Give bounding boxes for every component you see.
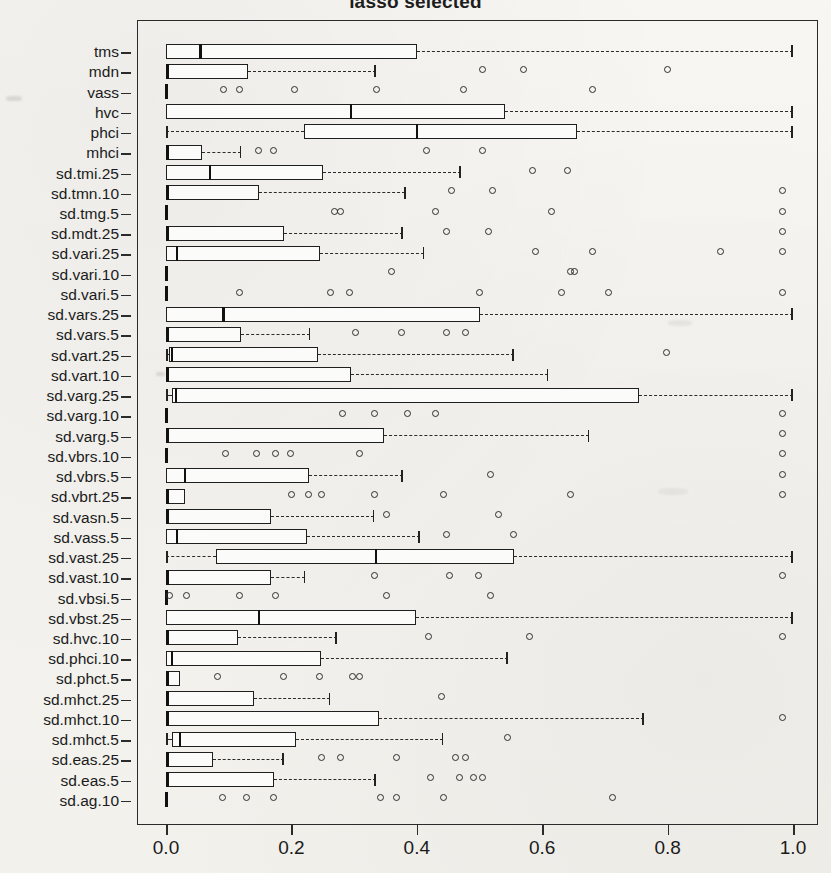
y-tick-label-sd-vart-10: sd.vart.10 [51, 369, 119, 383]
outlier-point [383, 592, 390, 599]
whisker-high [274, 779, 376, 780]
outlier-point [520, 66, 527, 73]
outlier-point [440, 491, 447, 498]
y-tick-mark [121, 679, 131, 680]
whisker-high [379, 718, 644, 719]
outlier-point [589, 86, 596, 93]
outlier-point [779, 248, 786, 255]
whisker-high [416, 617, 793, 618]
outlier-point [438, 693, 445, 700]
whisker-cap-high [373, 510, 375, 522]
x-tick-label: 0.6 [529, 837, 555, 859]
outlier-point [462, 754, 469, 761]
outlier-point [327, 289, 334, 296]
outlier-point [529, 167, 536, 174]
outlier-point [270, 794, 277, 801]
x-tick-label: 0.8 [654, 837, 680, 859]
outlier-point [255, 147, 262, 154]
y-tick-mark [121, 740, 131, 741]
boxplot-row [137, 770, 818, 791]
y-tick-mark [121, 781, 131, 782]
y-tick-mark [121, 437, 131, 438]
y-tick-mark [121, 295, 131, 296]
median-line [350, 104, 352, 119]
outlier-point [446, 572, 453, 579]
outlier-point [779, 208, 786, 215]
outlier-point [356, 673, 363, 680]
boxplot-row [137, 689, 818, 710]
box [166, 630, 238, 645]
y-tick-mark [121, 174, 131, 175]
box [172, 388, 639, 403]
x-tick-label: 0.4 [404, 837, 430, 859]
boxplot-row [137, 669, 818, 690]
boxplot-row [137, 649, 818, 670]
median-line [166, 570, 169, 585]
whisker-high [384, 435, 589, 436]
outlier-point [339, 410, 346, 417]
box [166, 44, 417, 59]
outlier-point [425, 633, 432, 640]
whisker-cap-high [506, 652, 508, 664]
outlier-point [272, 450, 279, 457]
outlier-point [589, 248, 596, 255]
whisker-high [254, 698, 330, 699]
whisker-high [307, 536, 420, 537]
median-line [166, 630, 169, 645]
outlier-point [222, 450, 229, 457]
boxplot-row [137, 709, 818, 730]
whisker-cap-high [418, 531, 420, 543]
outlier-point [779, 430, 786, 437]
outlier-point [605, 289, 612, 296]
y-tick-mark [121, 497, 131, 498]
box-degenerate [165, 266, 168, 281]
y-tick-label-sd-vbrt-25: sd.vbrt.25 [51, 490, 119, 504]
median-line [171, 347, 173, 362]
median-line [166, 367, 169, 382]
boxplot-row [137, 224, 818, 245]
boxplot-row [137, 365, 818, 386]
outlier-point [779, 228, 786, 235]
median-line [179, 732, 181, 747]
outlier-point [779, 289, 786, 296]
whisker-low [166, 131, 304, 132]
box [166, 104, 505, 119]
outlier-point [393, 794, 400, 801]
y-tick-label-mhci: mhci [86, 146, 119, 160]
outlier-point [270, 147, 277, 154]
boxplot-row [137, 143, 818, 164]
outlier-point [609, 794, 616, 801]
outlier-point [243, 794, 250, 801]
boxplot-row [137, 203, 818, 224]
y-tick-mark [121, 619, 131, 620]
box-degenerate [165, 205, 168, 220]
whisker-cap-low [166, 126, 168, 138]
box-degenerate [165, 408, 168, 423]
box-degenerate [165, 792, 168, 807]
boxplot-row [137, 588, 818, 609]
y-tick-label-sd-hvc-10: sd.hvc.10 [53, 632, 119, 646]
box [216, 549, 514, 564]
y-tick-label-sd-mdt-25: sd.mdt.25 [51, 227, 119, 241]
whisker-cap-high [401, 227, 403, 239]
x-tick-mark [793, 825, 795, 835]
y-tick-mark [121, 416, 131, 417]
whisker-cap-high [512, 349, 514, 361]
outlier-point [456, 774, 463, 781]
y-tick-mark [121, 234, 131, 235]
y-tick-mark [121, 639, 131, 640]
outlier-point [663, 349, 670, 356]
box [166, 367, 351, 382]
page-title: lasso selected [0, 0, 831, 11]
y-tick-label-sd-ag-10: sd.ag.10 [60, 794, 119, 808]
y-tick-label-sd-tmg-5: sd.tmg.5 [60, 207, 119, 221]
y-tick-mark [121, 153, 131, 154]
outlier-point [352, 329, 359, 336]
y-tick-mark [121, 93, 131, 94]
boxplot-row [137, 122, 818, 143]
whisker-cap-high [791, 106, 793, 118]
outlier-point [371, 491, 378, 498]
whisker-cap-low [166, 389, 168, 401]
box [172, 732, 296, 747]
median-line [416, 124, 418, 139]
